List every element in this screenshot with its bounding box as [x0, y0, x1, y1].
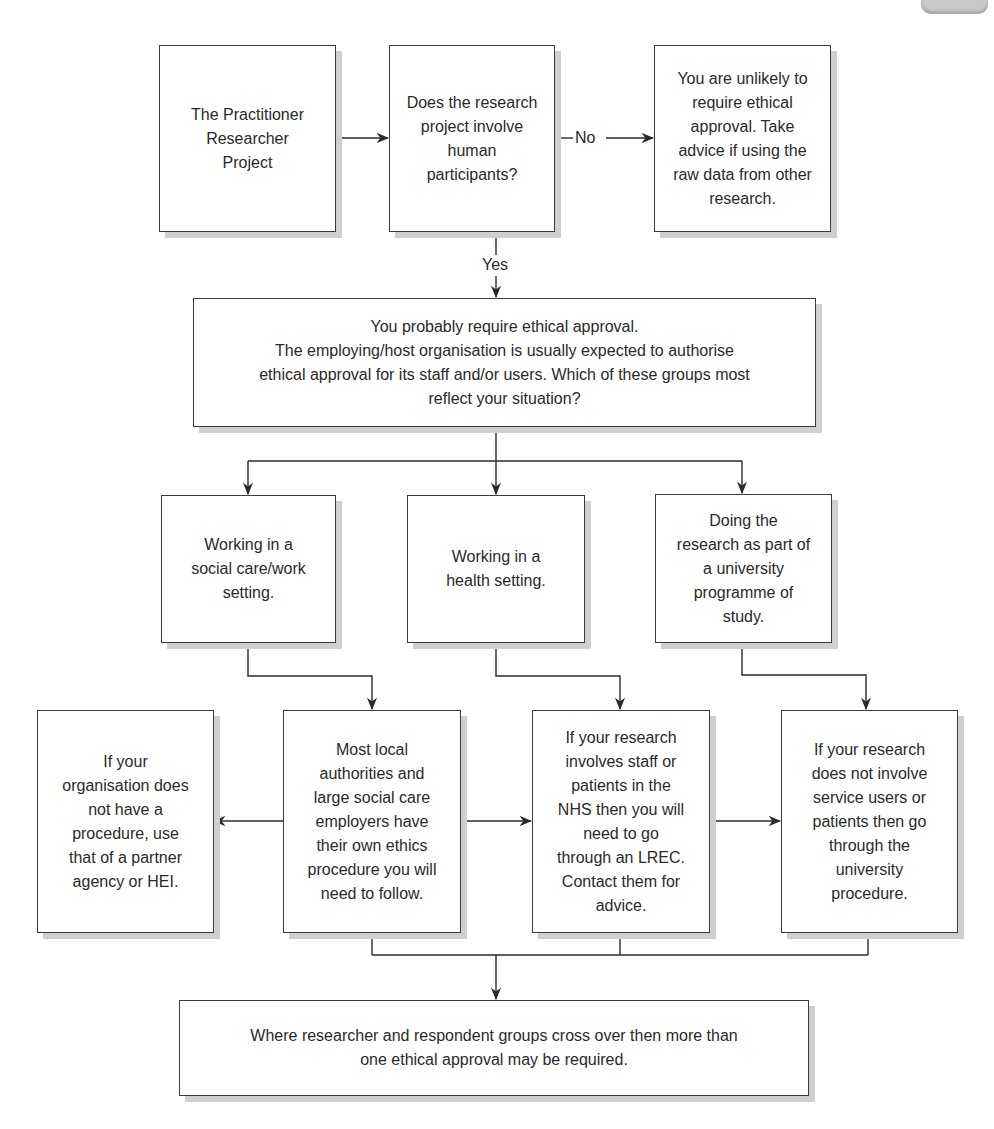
node-social: Working in a social care/work setting. [161, 495, 336, 643]
node-social-text: Working in a social care/work setting. [191, 533, 306, 605]
node-university: Doing the research as part of a universi… [655, 494, 832, 643]
node-university-procedure-text: If your research does not involve servic… [812, 738, 928, 906]
node-local-authorities: Most local authorities and large social … [283, 710, 461, 933]
node-nhs-text: If your research involves staff or patie… [557, 726, 685, 918]
edge-label-yes: Yes [480, 256, 510, 274]
flowchart-canvas: No Yes The Practitioner Researcher Proje… [0, 0, 994, 1129]
node-partner: If your organisation does not have a pro… [37, 710, 214, 933]
node-no-outcome-text: You are unlikely to require ethical appr… [673, 67, 812, 211]
node-start-text: The Practitioner Researcher Project [191, 103, 304, 175]
arrow-health-to-nhs [496, 642, 620, 709]
node-health: Working in a health setting. [407, 495, 585, 643]
node-health-text: Working in a health setting. [446, 545, 546, 593]
arrow-social-to-local [248, 642, 372, 709]
node-final-text: Where researcher and respondent groups c… [250, 1024, 737, 1072]
node-no-outcome: You are unlikely to require ethical appr… [654, 45, 831, 232]
node-yes-outcome-text: You probably require ethical approval. T… [259, 315, 750, 411]
node-university-procedure: If your research does not involve servic… [781, 710, 958, 933]
node-question-text: Does the research project involve human … [407, 91, 538, 187]
node-university-text: Doing the research as part of a universi… [677, 509, 810, 629]
arrow-university-to-procedure [742, 642, 866, 709]
node-nhs: If your research involves staff or patie… [532, 710, 710, 933]
node-start: The Practitioner Researcher Project [159, 45, 336, 232]
node-final: Where researcher and respondent groups c… [179, 1000, 809, 1096]
node-question: Does the research project involve human … [389, 45, 555, 232]
node-yes-outcome: You probably require ethical approval. T… [193, 298, 816, 427]
node-partner-text: If your organisation does not have a pro… [62, 750, 188, 894]
node-local-authorities-text: Most local authorities and large social … [308, 738, 437, 906]
edge-label-no: No [573, 129, 597, 147]
